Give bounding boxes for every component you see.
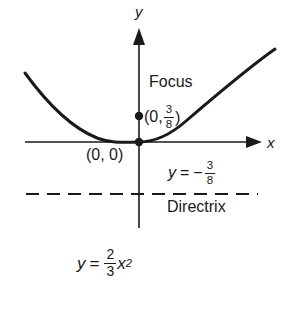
focus-coord-denominator: 8 <box>164 117 174 131</box>
focus-coordinate-label: (0, 3 8 ) <box>144 104 181 130</box>
curve-eq-denominator: 3 <box>104 263 116 279</box>
focus-coord-numerator: 3 <box>164 104 174 117</box>
directrix-eq-sign: − <box>193 165 202 181</box>
curve-eq-numerator: 2 <box>104 248 116 263</box>
vertex-point <box>135 138 143 146</box>
focus-point <box>135 112 143 120</box>
directrix-eq-numerator: 3 <box>205 160 215 173</box>
directrix-eq-denominator: 8 <box>205 173 215 187</box>
parabola-figure <box>0 0 290 313</box>
vertex-coordinate-label: (0, 0) <box>86 147 123 163</box>
directrix-eq-fraction: 3 8 <box>205 160 215 186</box>
focus-coord-close: ) <box>175 109 180 125</box>
curve-eq-x: x <box>117 255 126 272</box>
curve-equation-label: y = 2 3 x 2 <box>77 248 132 279</box>
curve-eq-variable: y <box>77 255 86 272</box>
x-axis-label: x <box>267 135 275 150</box>
focus-coord-fraction: 3 8 <box>164 104 174 130</box>
directrix-eq-variable: y <box>168 165 176 181</box>
curve-eq-equals: = <box>90 255 100 272</box>
focus-label: Focus <box>149 74 193 90</box>
directrix-label: Directrix <box>167 199 226 215</box>
focus-coord-open: (0, <box>144 109 163 125</box>
curve-eq-fraction: 2 3 <box>104 248 116 279</box>
curve-eq-exponent: 2 <box>126 258 132 269</box>
y-axis-label: y <box>135 4 143 19</box>
directrix-equation-label: y = − 3 8 <box>168 160 216 186</box>
directrix-eq-equals: = <box>180 165 189 181</box>
